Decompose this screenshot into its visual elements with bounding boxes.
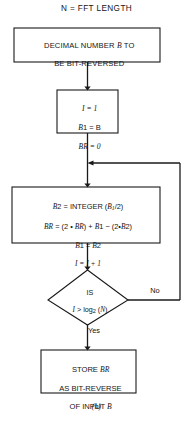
flowchart-diagram xyxy=(0,0,193,421)
decision-diamond-shape xyxy=(48,270,128,325)
init-box-shape xyxy=(57,90,118,133)
start-box-shape xyxy=(14,28,160,62)
compute-box-shape xyxy=(12,187,160,243)
store-box-shape xyxy=(41,350,136,393)
